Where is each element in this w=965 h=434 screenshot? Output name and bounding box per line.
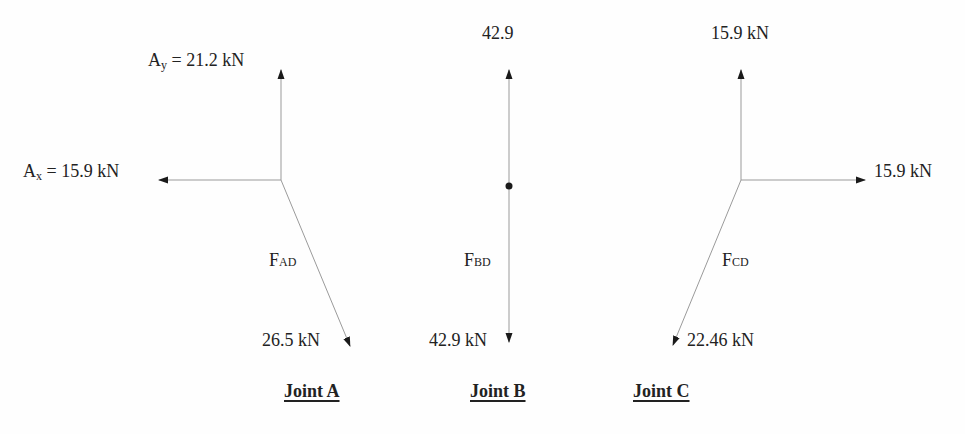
joint-a-fad-magnitude: 26.5 kN [262,330,320,350]
joint-a-fad-label: FAD [269,250,296,272]
joint-c-fcd-magnitude: 22.46 kN [687,330,754,350]
joint-b-fbd-magnitude: 42.9 kN [429,330,487,350]
joint-b-title: Joint B [470,381,526,402]
joint-c-up-label: 15.9 kN [711,23,769,43]
joint-b-vectors [506,70,513,342]
joint-b-node [506,183,513,190]
joint-c-vectors [673,70,865,345]
joint-c-fcd-label: FCD [722,250,749,272]
joint-a-title: Joint A [284,381,340,402]
joint-c-title: Joint C [633,381,690,402]
joint-a-ay-label: Ay = 21.2 kN [148,50,244,75]
force-vectors [0,0,965,434]
joint-b-fbd-label: FBD [464,250,491,272]
joint-a-ax-label: Ax = 15.9 kN [23,161,119,186]
free-body-diagram: Ay = 21.2 kN Ax = 15.9 kN FAD 26.5 kN Jo… [0,0,965,434]
joint-c-right-label: 15.9 kN [874,161,932,181]
joint-a-vectors [159,70,350,346]
joint-b-up-label: 42.9 [482,23,514,43]
